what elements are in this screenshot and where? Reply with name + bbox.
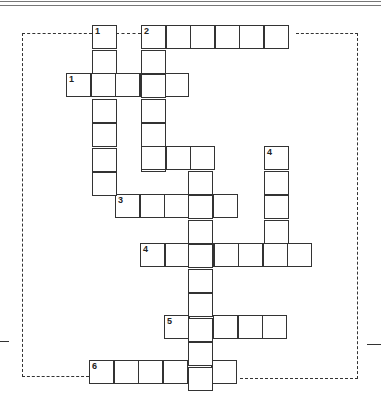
crossword-cell[interactable]: [141, 123, 166, 147]
crossword-cell[interactable]: [188, 171, 213, 195]
crossword-cell[interactable]: 3: [115, 194, 140, 218]
crossword-cell[interactable]: 5: [164, 315, 189, 339]
frame-right: [357, 33, 358, 379]
crossword-cell[interactable]: [140, 194, 165, 218]
crossword-cell[interactable]: [92, 123, 117, 147]
crossword-cell[interactable]: 4: [140, 243, 165, 267]
crossword-cell[interactable]: [141, 50, 166, 74]
crossword-cell[interactable]: [166, 146, 191, 170]
crossword-cell[interactable]: [91, 73, 116, 97]
crossword-cell[interactable]: [164, 73, 189, 97]
crossword-cell[interactable]: [114, 360, 139, 384]
crossword-cell[interactable]: [92, 50, 117, 74]
crossword-cell[interactable]: [264, 171, 289, 195]
crossword-cell[interactable]: [190, 25, 215, 49]
crossword-cell[interactable]: [188, 367, 213, 391]
crossword-cell[interactable]: [141, 146, 166, 170]
crossword-cell[interactable]: [92, 172, 117, 196]
crossword-cell[interactable]: [165, 243, 190, 267]
clue-number: 1: [95, 27, 100, 36]
clue-number: 4: [267, 148, 272, 157]
top-rule-1: [0, 1, 381, 2]
frame-left: [22, 33, 23, 377]
crossword-cell[interactable]: [264, 195, 289, 219]
crossword-cell[interactable]: [263, 243, 288, 267]
crossword-cell[interactable]: 2: [141, 25, 166, 49]
crossword-cell[interactable]: [188, 342, 213, 366]
left-stub: [0, 341, 9, 342]
clue-number: 3: [118, 196, 123, 205]
crossword-cell[interactable]: [188, 318, 213, 342]
clue-number: 4: [143, 245, 148, 254]
crossword-cell[interactable]: [264, 25, 289, 49]
crossword-cell[interactable]: 1: [92, 25, 117, 49]
crossword-cell[interactable]: [115, 73, 140, 97]
frame-top-mid: [116, 33, 141, 34]
frame-top-right: [296, 33, 358, 34]
crossword-cell[interactable]: [163, 360, 188, 384]
crossword-cell[interactable]: [287, 243, 312, 267]
clue-number: 1: [69, 75, 74, 84]
crossword-cell[interactable]: [238, 243, 263, 267]
crossword-cell[interactable]: 6: [89, 360, 114, 384]
top-rule-2: [0, 5, 381, 6]
clue-number: 2: [144, 27, 149, 36]
crossword-cell[interactable]: [141, 99, 166, 123]
crossword-cell[interactable]: [264, 220, 289, 244]
crossword-cell[interactable]: [215, 25, 240, 49]
crossword-cell[interactable]: [141, 74, 166, 98]
crossword-cell[interactable]: [188, 293, 213, 317]
crossword-cell[interactable]: 1: [66, 73, 91, 97]
crossword-cell[interactable]: [212, 360, 237, 384]
crossword-cell[interactable]: [238, 315, 263, 339]
crossword-cell[interactable]: 4: [264, 146, 289, 170]
crossword-cell[interactable]: [138, 360, 163, 384]
crossword-cell[interactable]: [213, 194, 238, 218]
crossword-cell[interactable]: [166, 25, 191, 49]
crossword-cell[interactable]: [188, 220, 213, 244]
clue-number: 5: [167, 317, 172, 326]
crossword-cell[interactable]: [92, 99, 117, 123]
crossword-cell[interactable]: [262, 315, 287, 339]
crossword-cell[interactable]: [213, 315, 238, 339]
crossword-cell[interactable]: [239, 25, 264, 49]
right-stub: [367, 344, 381, 345]
crossword-cell[interactable]: [164, 194, 189, 218]
crossword-cell[interactable]: [188, 195, 213, 219]
crossword-cell[interactable]: [92, 148, 117, 172]
crossword-cell[interactable]: [188, 244, 213, 268]
crossword-cell[interactable]: [190, 146, 215, 170]
frame-bottom-right: [240, 378, 358, 379]
frame-bottom-left: [22, 376, 89, 377]
crossword-cell[interactable]: [214, 243, 239, 267]
clue-number: 6: [92, 362, 97, 371]
crossword-cell[interactable]: [188, 269, 213, 293]
frame-top-left: [22, 33, 92, 34]
